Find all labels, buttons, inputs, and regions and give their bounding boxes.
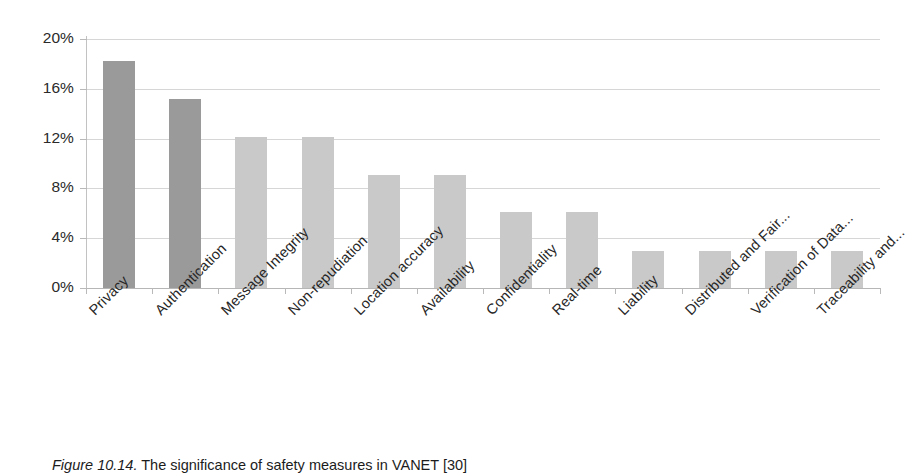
x-tick-mark (615, 288, 616, 294)
y-tick-mark (80, 89, 87, 90)
y-axis-tick-labels: 20%16%12%8%4%0% (0, 0, 74, 474)
y-tick-label: 16% (0, 79, 74, 97)
figure-number: Figure 10.14. (52, 457, 137, 473)
x-tick-mark (483, 288, 484, 294)
y-tick-label: 0% (0, 278, 74, 296)
x-tick-mark (417, 288, 418, 294)
bar[interactable] (103, 61, 135, 288)
y-tick-label: 20% (0, 29, 74, 47)
x-tick-mark (748, 288, 749, 294)
x-tick-mark (351, 288, 352, 294)
bar[interactable] (169, 99, 201, 288)
y-tick-mark (80, 238, 87, 239)
x-tick-mark (86, 288, 87, 294)
x-tick-mark (218, 288, 219, 294)
x-tick-mark (285, 288, 286, 294)
x-tick-mark (814, 288, 815, 294)
figure-caption-text: The significance of safety measures in V… (141, 457, 467, 473)
x-tick-mark (880, 288, 881, 294)
x-tick-mark (152, 288, 153, 294)
y-tick-label: 12% (0, 129, 74, 147)
y-tick-mark (80, 139, 87, 140)
y-tick-mark (80, 39, 87, 40)
x-tick-mark (549, 288, 550, 294)
figure-container: 20%16%12%8%4%0% PrivacyAuthenticationMes… (0, 0, 910, 474)
x-tick-mark (682, 288, 683, 294)
figure-caption: Figure 10.14. The significance of safety… (52, 457, 882, 473)
y-tick-mark (80, 188, 87, 189)
y-tick-label: 8% (0, 178, 74, 196)
bars-layer (86, 39, 880, 288)
y-tick-label: 4% (0, 228, 74, 246)
